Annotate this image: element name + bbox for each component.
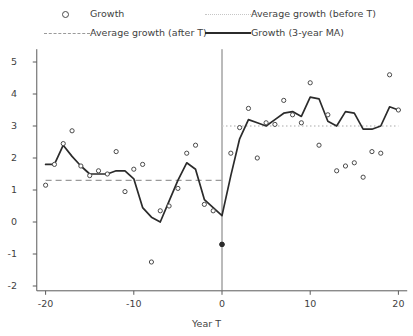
dashed-line-icon (44, 27, 90, 39)
scatter-point (387, 73, 391, 77)
x-tick-label: -10 (119, 298, 149, 309)
scatter-point (255, 156, 259, 160)
y-tick-label: -2 (1, 280, 17, 291)
scatter-point (202, 202, 206, 206)
scatter-point (370, 150, 374, 154)
scatter-point (79, 164, 83, 168)
legend-item-average-after: Average growth (after T) (44, 27, 207, 39)
scatter-point (326, 113, 330, 117)
scatter-point (317, 143, 321, 147)
legend-label-average-before: Average growth (before T) (251, 8, 376, 20)
scatter-point (185, 151, 189, 155)
scatter-point (123, 190, 127, 194)
y-tick-label: 3 (1, 120, 17, 131)
scatter-point (282, 98, 286, 102)
scatter-point (149, 260, 153, 264)
x-axis-title: Year T (0, 318, 413, 329)
legend-label-average-after: Average growth (after T) (90, 27, 207, 39)
scatter-point (361, 175, 365, 179)
scatter-point (70, 129, 74, 133)
scatter-point (105, 172, 109, 176)
open-circle-marker-icon (44, 8, 90, 20)
scatter-point (52, 162, 56, 166)
scatter-point (167, 204, 171, 208)
scatter-point (264, 121, 268, 125)
scatter-point (114, 150, 118, 154)
scatter-point (343, 164, 347, 168)
scatter-point (176, 186, 180, 190)
plot-area: -2-1012345-20-1001020 (0, 46, 413, 336)
scatter-point (44, 183, 48, 187)
legend-item-average-before: Average growth (before T) (205, 8, 376, 20)
scatter-point (132, 167, 136, 171)
scatter-point (238, 126, 242, 130)
x-tick-label: 20 (383, 298, 413, 309)
legend-item-growth-ma: Growth (3-year MA) (205, 27, 344, 39)
x-tick-label: -20 (31, 298, 61, 309)
scatter-point (352, 161, 356, 165)
scatter-point (193, 143, 197, 147)
scatter-point (246, 106, 250, 110)
legend-item-growth: Growth (44, 8, 124, 20)
legend-label-growth: Growth (90, 8, 124, 20)
scatter-point (396, 108, 400, 112)
y-tick-label: 1 (1, 184, 17, 195)
scatter-point (88, 174, 92, 178)
growth-around-year-t-chart: Growth Average growth (before T) Average… (0, 0, 413, 336)
y-tick-label: 4 (1, 88, 17, 99)
scatter-point (299, 121, 303, 125)
y-tick-label: 5 (1, 56, 17, 67)
scatter-point (158, 209, 162, 213)
x-tick-label: 0 (207, 298, 237, 309)
y-tick-label: 0 (1, 216, 17, 227)
scatter-point (229, 151, 233, 155)
scatter-point (141, 162, 145, 166)
scatter-point (96, 169, 100, 173)
dotted-line-icon (205, 8, 251, 20)
solid-line-icon (205, 27, 251, 39)
chart-legend: Growth Average growth (before T) Average… (0, 0, 413, 46)
y-tick-label: -1 (1, 248, 17, 259)
scatter-point-event (220, 242, 225, 247)
scatter-point (61, 142, 65, 146)
y-tick-label: 2 (1, 152, 17, 163)
scatter-point (211, 209, 215, 213)
x-tick-label: 10 (295, 298, 325, 309)
scatter-point (290, 113, 294, 117)
scatter-point (273, 122, 277, 126)
legend-label-growth-ma: Growth (3-year MA) (251, 27, 344, 39)
scatter-point (379, 151, 383, 155)
plot-svg (0, 46, 413, 336)
scatter-point (308, 81, 312, 85)
scatter-point (335, 169, 339, 173)
